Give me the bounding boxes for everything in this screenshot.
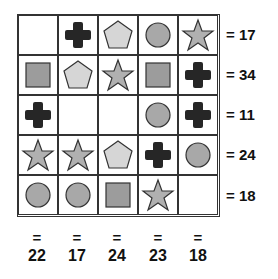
grid-cell-r4-c4: [138, 135, 178, 175]
grid-cell-r1-c4: [138, 15, 178, 55]
row-sum-3: = 11: [226, 106, 255, 123]
grid-cell-r1-c1: [18, 15, 58, 55]
pentagon-icon: [101, 18, 135, 52]
col-sum-1: =22: [17, 230, 57, 266]
cross-icon: [21, 98, 55, 132]
circle-icon: [141, 18, 175, 52]
grid-cell-r3-c3: [98, 95, 138, 135]
pentagon-icon: [101, 138, 135, 172]
grid-cell-r3-c2: [58, 95, 98, 135]
cross-icon: [181, 58, 215, 92]
grid-cell-r5-c1: [18, 175, 58, 215]
row-sum-5: = 18: [226, 187, 256, 204]
star-icon: [61, 138, 95, 172]
square-icon: [141, 58, 175, 92]
row-sum-1: = 17: [226, 26, 256, 43]
grid-cell-r3-c1: [18, 95, 58, 135]
grid-cell-r5-c5: [178, 175, 218, 215]
grid-cell-r5-c4: [138, 175, 178, 215]
grid-cell-r2-c1: [18, 55, 58, 95]
grid-cell-r4-c1: [18, 135, 58, 175]
grid-cell-r4-c5: [178, 135, 218, 175]
grid-cell-r1-c2: [58, 15, 98, 55]
col-sum-5: =18: [178, 230, 218, 266]
square-icon: [101, 178, 135, 212]
grid-cell-r1-c3: [98, 15, 138, 55]
col-sum-2: =17: [57, 230, 97, 266]
row-sum-4: = 24: [226, 146, 256, 163]
grid-cell-r4-c2: [58, 135, 98, 175]
puzzle-grid: [17, 14, 220, 217]
row-sum-2: = 34: [226, 66, 256, 83]
star-icon: [141, 178, 175, 212]
circle-icon: [181, 138, 215, 172]
star-icon: [101, 58, 135, 92]
cross-icon: [61, 18, 95, 52]
star-icon: [21, 138, 55, 172]
grid-cell-r2-c5: [178, 55, 218, 95]
square-icon: [21, 58, 55, 92]
cross-icon: [141, 138, 175, 172]
circle-icon: [141, 98, 175, 132]
grid-cell-r2-c3: [98, 55, 138, 95]
pentagon-icon: [61, 58, 95, 92]
grid-cell-r4-c3: [98, 135, 138, 175]
grid-cell-r5-c3: [98, 175, 138, 215]
grid-cell-r3-c5: [178, 95, 218, 135]
col-sum-3: =24: [97, 230, 137, 266]
circle-icon: [61, 178, 95, 212]
grid-cell-r5-c2: [58, 175, 98, 215]
grid-cell-r1-c5: [178, 15, 218, 55]
circle-icon: [21, 178, 55, 212]
star-icon: [181, 18, 215, 52]
grid-cell-r2-c4: [138, 55, 178, 95]
grid-cell-r3-c4: [138, 95, 178, 135]
cross-icon: [181, 98, 215, 132]
grid-cell-r2-c2: [58, 55, 98, 95]
col-sum-4: =23: [138, 230, 178, 266]
